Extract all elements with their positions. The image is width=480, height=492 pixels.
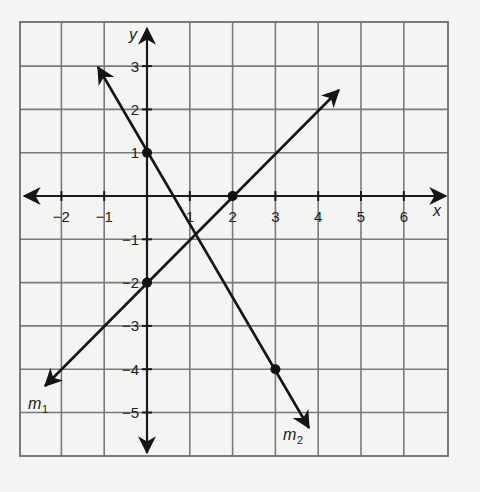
graph-canvas: −2 −1 1 2 3 4 5 6 3 2 1 −1 −2 −3 −4 −5 x… — [0, 0, 480, 492]
grid-lines — [20, 22, 448, 456]
x-tick-labels: −2 −1 1 2 3 4 5 6 — [53, 208, 408, 225]
x-tick-label: 2 — [228, 208, 236, 225]
point-2-0 — [228, 191, 238, 201]
point-0-1 — [142, 148, 152, 158]
x-tick-label: 5 — [357, 208, 365, 225]
x-tick-label: 6 — [400, 208, 408, 225]
point-3-neg4 — [270, 364, 280, 374]
y-tick-label: −3 — [122, 317, 139, 334]
x-tick-label: 3 — [271, 208, 279, 225]
x-axis-label: x — [432, 202, 442, 219]
y-tick-label: −5 — [122, 404, 139, 421]
svg-text:2: 2 — [297, 434, 303, 446]
x-tick-label: −2 — [53, 208, 70, 225]
y-tick-label: 1 — [131, 144, 139, 161]
line-m1 — [45, 90, 339, 386]
y-tick-label: −2 — [122, 274, 139, 291]
y-axis-label: y — [128, 26, 138, 43]
svg-text:1: 1 — [42, 403, 48, 415]
label-m2: m 2 — [283, 426, 303, 446]
svg-text:m: m — [28, 395, 41, 412]
y-tick-label: 3 — [131, 58, 139, 75]
point-0-neg2 — [142, 278, 152, 288]
y-tick-label: 2 — [131, 101, 139, 118]
x-tick-label: −1 — [96, 208, 113, 225]
coordinate-graph: −2 −1 1 2 3 4 5 6 3 2 1 −1 −2 −3 −4 −5 x… — [0, 0, 480, 492]
x-tick-label: 4 — [314, 208, 322, 225]
y-tick-label: −1 — [122, 231, 139, 248]
y-tick-label: −4 — [122, 361, 139, 378]
svg-text:m: m — [283, 426, 296, 443]
